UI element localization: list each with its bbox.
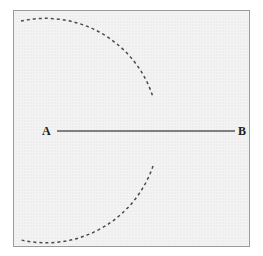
- point-label-b: B: [238, 125, 246, 137]
- lower-dashed-arc: [21, 166, 153, 243]
- point-label-a: A: [42, 125, 51, 137]
- figure-root: A B: [0, 0, 263, 256]
- geometry-canvas: [0, 0, 263, 256]
- upper-dashed-arc: [21, 18, 153, 97]
